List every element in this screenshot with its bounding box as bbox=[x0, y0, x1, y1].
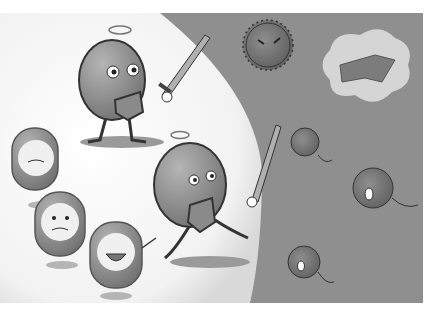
illustration bbox=[0, 0, 431, 310]
germ-spiky-top bbox=[243, 20, 293, 70]
